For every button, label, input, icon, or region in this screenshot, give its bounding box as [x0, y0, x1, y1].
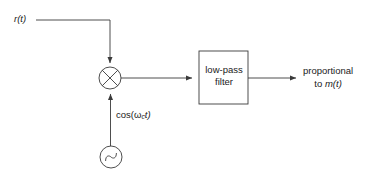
label-output-signal: proportional to m(t)	[303, 65, 353, 90]
filter-line-1-text: low-pass	[205, 64, 243, 75]
wire-input-to-multiplier	[36, 20, 110, 63]
output-line-2-prefix-text: to	[314, 78, 325, 89]
label-carrier-signal: cos(ωct)	[116, 109, 151, 123]
output-signal-text: m(t)	[325, 78, 342, 89]
filter-line-2-text: filter	[215, 76, 233, 87]
carrier-prefix-text: cos(ω	[116, 109, 141, 120]
label-low-pass-filter: low-pass filter	[199, 64, 249, 87]
local-oscillator-block	[100, 146, 122, 168]
multiplier-block	[99, 67, 121, 89]
block-diagram-canvas: r(t) cos(ωct) low-pass filter proportion…	[0, 0, 388, 179]
output-line-1-text: proportional	[303, 65, 353, 76]
carrier-suffix-text: t)	[145, 109, 151, 120]
label-input-signal: r(t)	[14, 13, 26, 25]
input-signal-text: r(t)	[14, 13, 26, 24]
